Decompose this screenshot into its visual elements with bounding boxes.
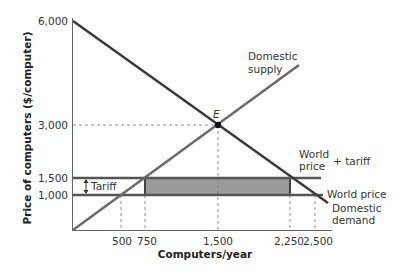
chart: E Tariff 6,000 3,000 1,500 1,000 500 750…: [0, 0, 398, 274]
demand-label-line1: Domestic: [332, 202, 382, 214]
x-tick-750: 750: [137, 235, 157, 247]
equilibrium-label: E: [213, 108, 220, 120]
equilibrium-point: [215, 122, 221, 128]
wpt-label-line3: + tariff: [333, 155, 371, 167]
wpt-label-line2: price: [299, 160, 325, 172]
x-axis-title: Computers/year: [158, 248, 253, 260]
arrow-down-icon: [84, 190, 89, 194]
arrow-up-icon: [84, 179, 89, 183]
demand-label-line2: demand: [332, 214, 375, 226]
domestic-demand-line: [73, 21, 328, 203]
y-tick-1500: 1,500: [38, 172, 68, 184]
y-axis-title: Price of computers ($/computer): [21, 32, 33, 225]
tariff-revenue-area: [145, 178, 290, 195]
supply-label-line2: supply: [248, 63, 283, 75]
supply-label-line1: Domestic: [248, 50, 298, 62]
domestic-supply-line: [73, 65, 299, 230]
x-tick-2500: 2,500: [303, 235, 333, 247]
wpt-label-line1: World: [299, 148, 329, 160]
world-price-label: World price: [327, 188, 387, 200]
y-tick-1000: 1,000: [38, 189, 68, 201]
x-tick-500: 500: [112, 235, 132, 247]
x-tick-1500: 1,500: [203, 235, 233, 247]
tariff-label: Tariff: [90, 180, 117, 192]
y-tick-3000: 3,000: [38, 119, 68, 131]
y-tick-6000: 6,000: [38, 15, 68, 27]
x-tick-2250: 2,250: [274, 235, 304, 247]
